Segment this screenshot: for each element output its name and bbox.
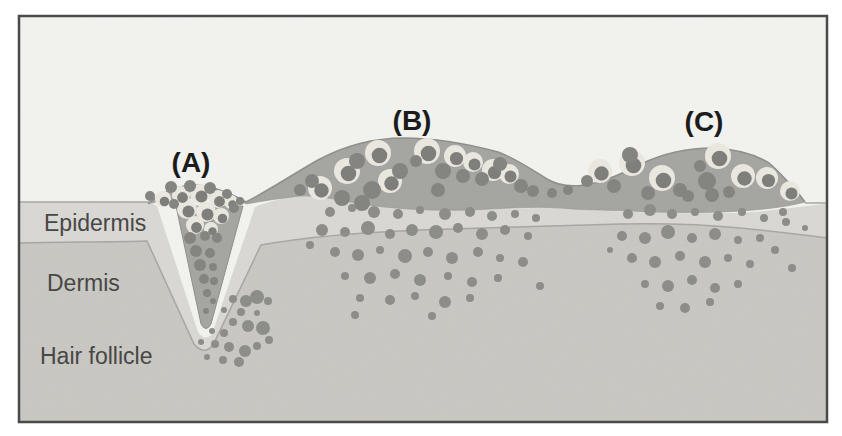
grain-overlay bbox=[19, 16, 827, 422]
skin-diagram-figure: (A) (B) (C) Epidermis Dermis Hair follic… bbox=[0, 0, 842, 436]
skin-diagram-canvas: (A) (B) (C) Epidermis Dermis Hair follic… bbox=[0, 0, 842, 436]
